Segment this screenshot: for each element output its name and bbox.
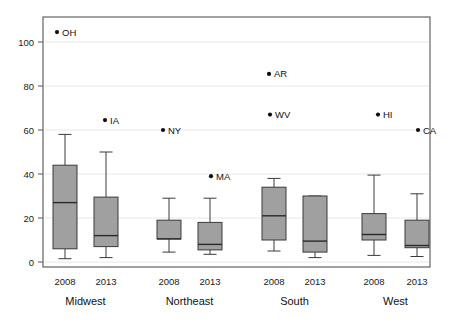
x-axis-group-label: South <box>280 295 309 307</box>
boxplot-box <box>94 152 118 258</box>
boxplot-box <box>405 194 429 257</box>
box-iqr <box>362 214 386 240</box>
x-axis-year-label: 2013 <box>304 276 325 287</box>
x-axis-year-label: 2013 <box>406 276 427 287</box>
y-axis-tick-label: 100 <box>18 37 34 48</box>
x-axis-year-labels: 20082013200820132008201320082013 <box>54 276 427 287</box>
y-axis-tick-label: 60 <box>23 125 34 136</box>
boxplot-box <box>362 175 386 255</box>
outlier-label: HI <box>383 109 393 120</box>
y-axis-ticks <box>38 42 43 262</box>
boxplot-chart: 020406080100 OHIANYMAARWVHICA 2008201320… <box>0 0 460 326</box>
outlier-points: OHIANYMAARWVHICA <box>55 27 437 182</box>
outlier-label: MA <box>216 171 231 182</box>
boxplot-box <box>262 178 286 251</box>
outlier-dot <box>209 174 213 178</box>
y-axis-tick-label: 20 <box>23 213 34 224</box>
box-iqr <box>198 222 222 250</box>
y-axis-tick-label: 0 <box>29 257 34 268</box>
box-iqr <box>262 187 286 240</box>
y-axis-tick-labels: 020406080100 <box>18 37 34 268</box>
x-axis-year-label: 2013 <box>199 276 220 287</box>
boxplot-box <box>53 134 77 258</box>
outlier-dot <box>268 113 272 117</box>
outlier-label: CA <box>423 125 437 136</box>
x-axis-year-label: 2008 <box>363 276 384 287</box>
outlier-dot <box>376 113 380 117</box>
x-axis-year-label: 2013 <box>95 276 116 287</box>
outlier-dot <box>416 128 420 132</box>
box-iqr <box>405 220 429 248</box>
y-axis-tick-label: 40 <box>23 169 34 180</box>
x-axis-year-label: 2008 <box>158 276 179 287</box>
box-iqr <box>157 220 181 239</box>
outlier-label: IA <box>110 115 120 126</box>
outlier-label: NY <box>168 125 182 136</box>
x-axis-group-labels: MidwestNortheastSouthWest <box>65 295 408 307</box>
outlier-dot <box>55 30 59 34</box>
x-axis-year-label: 2008 <box>263 276 284 287</box>
boxplot-box <box>157 198 181 252</box>
outlier-label: AR <box>274 68 287 79</box>
outlier-label: WV <box>275 109 291 120</box>
boxplot-box <box>198 198 222 254</box>
x-axis-year-label: 2008 <box>54 276 75 287</box>
boxplot-series <box>53 134 429 258</box>
x-axis-group-label: West <box>383 295 408 307</box>
outlier-dot <box>161 128 165 132</box>
outlier-label: OH <box>62 27 76 38</box>
outlier-dot <box>103 118 107 122</box>
plot-canvas: 020406080100 OHIANYMAARWVHICA 2008201320… <box>0 0 460 326</box>
y-axis-tick-label: 80 <box>23 81 34 92</box>
outlier-dot <box>267 72 271 76</box>
box-iqr <box>94 197 118 247</box>
boxplot-box <box>303 196 327 258</box>
box-iqr <box>53 165 77 249</box>
x-axis-group-label: Midwest <box>65 295 105 307</box>
box-iqr <box>303 196 327 252</box>
x-axis-group-label: Northeast <box>166 295 214 307</box>
